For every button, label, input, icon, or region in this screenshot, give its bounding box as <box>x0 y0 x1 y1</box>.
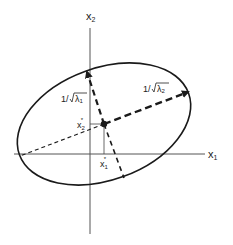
svg-text:1/: 1/ <box>143 84 151 94</box>
x2-axis-label: x2 <box>86 10 96 23</box>
x1-star-label: x1* <box>100 156 109 170</box>
ellipse-diagram: x2 x1 x2* x1* 1/ λ1 1/ λ2 <box>0 0 233 245</box>
major-axis-left <box>20 124 104 156</box>
center-point <box>101 121 107 127</box>
svg-text:λ1: λ1 <box>75 94 84 104</box>
x1-axis-label: x1 <box>208 148 218 161</box>
minor-axis-annotation: 1/ λ1 <box>61 93 87 104</box>
svg-text:1/: 1/ <box>61 94 69 104</box>
svg-text:λ2: λ2 <box>157 84 166 94</box>
major-axis-annotation: 1/ λ2 <box>143 83 169 94</box>
major-axis-arrow <box>104 92 188 124</box>
x2-star-label: x2* <box>77 117 86 131</box>
